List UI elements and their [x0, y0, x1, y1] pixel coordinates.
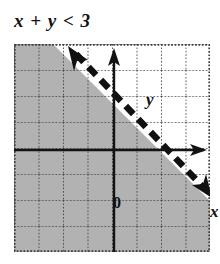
graph-canvas	[14, 44, 210, 252]
origin-label: 0	[113, 194, 121, 212]
plot-area: y x 0	[14, 44, 210, 252]
x-axis-label: x	[210, 202, 219, 222]
grid-lines	[14, 44, 210, 252]
inequality-graph-figure: x + y < 3	[0, 0, 220, 264]
page-title: x + y < 3	[14, 8, 91, 34]
y-axis-label: y	[146, 90, 154, 110]
